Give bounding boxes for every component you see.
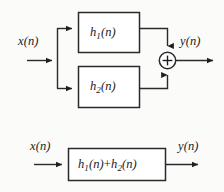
top-input-label: x(n)	[18, 35, 39, 48]
sum-block-arg2: (n)	[122, 157, 137, 171]
block-h1-label: h1(n)	[90, 26, 116, 41]
block-h1-arg: (n)	[101, 25, 116, 39]
block-h2-label: h2(n)	[90, 80, 116, 95]
block-h1-plus-h2-label: h1(n)+h2(n)	[78, 158, 137, 173]
sum-block-arg1: (n)	[89, 157, 104, 171]
bottom-output-label: y(n)	[178, 140, 199, 153]
block-h2-arg: (n)	[101, 79, 116, 93]
top-output-label: y(n)	[180, 35, 201, 48]
sum-block-operator: +	[104, 157, 111, 171]
top-path-h1-to-adder	[140, 29, 168, 47]
bottom-input-label: x(n)	[30, 140, 51, 153]
top-path-h2-to-adder	[140, 75, 168, 89]
figure-canvas: x(n) y(n) h1(n) h2(n) x(n) y(n) h1(n)+h2…	[0, 0, 224, 192]
